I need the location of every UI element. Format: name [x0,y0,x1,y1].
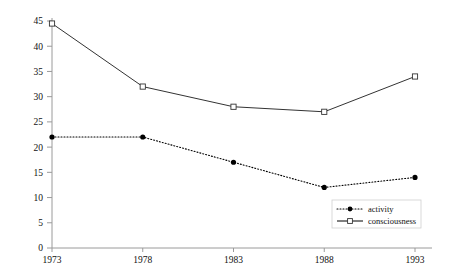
x-tick-label: 1973 [43,255,62,265]
data-point-marker [231,104,236,109]
y-tick-label: 20 [34,143,44,153]
series-line-consciousness [52,24,415,112]
chart-legend: activityconsciousness [332,200,421,228]
y-tick-label: 10 [34,193,44,203]
line-chart: 051015202530354045 19731978198319881993 … [0,0,450,275]
x-axis-tick-labels: 19731978198319881993 [43,255,425,265]
y-axis-ticks [47,21,52,248]
data-point-marker [412,175,417,180]
data-point-marker [322,109,327,114]
series-activity [49,134,417,190]
data-point-marker [231,160,236,165]
x-axis-ticks [52,248,415,252]
y-tick-label: 15 [34,168,44,178]
chart-canvas: 051015202530354045 19731978198319881993 … [0,0,450,275]
data-point-marker [49,21,54,26]
y-tick-label: 45 [34,16,44,26]
x-tick-label: 1983 [224,255,243,265]
x-tick-label: 1978 [133,255,152,265]
y-tick-label: 30 [34,92,44,102]
y-tick-label: 0 [38,243,43,253]
y-tick-label: 40 [34,42,44,52]
data-point-marker [140,84,145,89]
legend-label-consciousness: consciousness [368,216,416,226]
y-tick-label: 25 [34,117,44,127]
series-consciousness [49,21,417,114]
legend-marker-consciousness [348,219,353,224]
data-point-marker [49,134,54,139]
data-point-marker [140,134,145,139]
x-tick-label: 1993 [406,255,425,265]
data-point-marker [412,74,417,79]
legend-label-activity: activity [368,204,394,214]
data-point-marker [322,185,327,190]
y-axis-tick-labels: 051015202530354045 [34,16,44,253]
y-tick-label: 35 [34,67,44,77]
legend-marker-activity [348,207,353,212]
x-tick-label: 1988 [315,255,334,265]
y-tick-label: 5 [38,218,43,228]
